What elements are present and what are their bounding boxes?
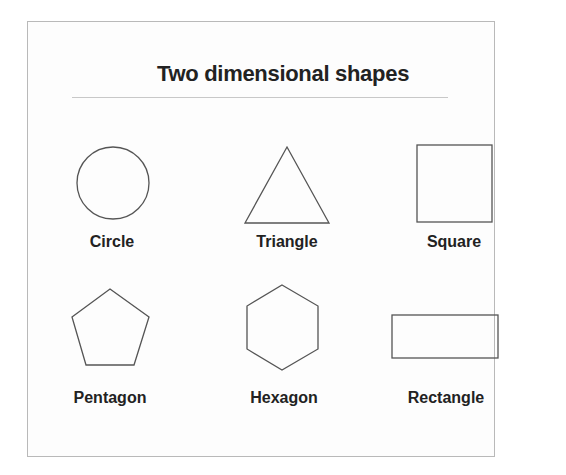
square-shape [417,145,492,222]
circle-shape [77,147,149,219]
rectangle-label: Rectangle [376,388,516,408]
hexagon-shape [247,285,318,370]
rectangle-shape [392,315,498,358]
square-label: Square [384,232,524,252]
circle-label: Circle [42,232,182,252]
triangle-label: Triangle [217,232,357,252]
hexagon-label: Hexagon [214,388,354,408]
pentagon-label: Pentagon [40,388,180,408]
triangle-shape [245,147,329,223]
pentagon-shape [72,289,149,365]
